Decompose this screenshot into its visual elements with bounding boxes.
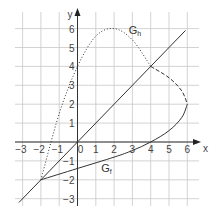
y-tick-label: 4 bbox=[69, 61, 75, 72]
x-tick-label: −1 bbox=[52, 144, 64, 155]
g-f-label: Gf bbox=[101, 162, 112, 175]
x-tick-label: 1 bbox=[93, 144, 99, 155]
x-tick-label: 6 bbox=[185, 144, 191, 155]
x-tick-label: 0 bbox=[78, 144, 84, 155]
y-tick-label: −1 bbox=[63, 156, 75, 167]
y-tick-label: 5 bbox=[69, 43, 75, 54]
axes bbox=[15, 8, 201, 206]
y-tick-label: 3 bbox=[69, 80, 75, 91]
curve-y-x bbox=[19, 30, 186, 202]
y-tick-label: 1 bbox=[69, 118, 75, 129]
y-tick-label: 6 bbox=[69, 24, 75, 35]
y-tick-label: −2 bbox=[63, 175, 75, 186]
y-tick-label: −3 bbox=[63, 194, 75, 205]
grid-lines bbox=[15, 12, 199, 206]
g-h-label: Gh bbox=[129, 24, 142, 37]
curves bbox=[19, 28, 187, 202]
y-axis-arrow-icon bbox=[75, 8, 81, 16]
x-tick-label: 4 bbox=[148, 144, 154, 155]
x-tick-label: 5 bbox=[166, 144, 172, 155]
x-tick-label: −3 bbox=[15, 144, 27, 155]
x-axis-label: x bbox=[203, 143, 208, 154]
tick-labels: −3−2−10123456−3−2−1123456 bbox=[15, 24, 190, 205]
y-tick-label: 2 bbox=[69, 99, 75, 110]
x-axis-arrow-icon bbox=[193, 139, 201, 145]
y-axis-label: y bbox=[68, 9, 73, 20]
x-tick-label: 2 bbox=[111, 144, 117, 155]
function-graph: −3−2−10123456−3−2−1123456 Gh Gf x y bbox=[0, 0, 212, 216]
x-tick-label: −2 bbox=[33, 144, 45, 155]
